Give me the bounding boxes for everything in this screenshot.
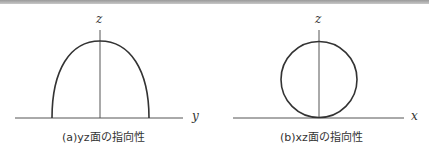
x-axis-label: x	[411, 109, 418, 123]
y-axis-label: y	[192, 109, 199, 123]
caption-b: (b)xz面の指向性	[280, 128, 363, 144]
caption-a: (a)yz面の指向性	[62, 128, 145, 144]
z-axis-label-a: z	[96, 12, 102, 26]
z-axis-label-b: z	[315, 12, 321, 26]
figure-b-xz-plane	[233, 30, 404, 118]
figure-a-yz-plane	[15, 30, 183, 118]
